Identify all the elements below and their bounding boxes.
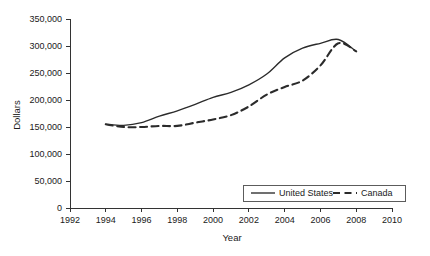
legend-label-canada: Canada: [361, 188, 393, 198]
chart-container: 050,000100,000150,000200,000250,000300,0…: [0, 0, 430, 256]
x-tick-label: 2008: [346, 215, 366, 225]
data-series-group: [106, 39, 356, 127]
line-chart: 050,000100,000150,000200,000250,000300,0…: [0, 0, 430, 256]
x-tick-label: 2010: [382, 215, 402, 225]
x-axis-title: Year: [222, 232, 241, 243]
x-tick-label: 1994: [96, 215, 116, 225]
x-tick-label: 1996: [132, 215, 152, 225]
y-tick-label: 50,000: [34, 176, 62, 186]
series-line-united-states: [106, 39, 356, 125]
legend-label-united-states: United States: [279, 188, 334, 198]
y-tick-label: 300,000: [29, 41, 62, 51]
x-tick-label: 1998: [167, 215, 187, 225]
x-tick-label: 2000: [203, 215, 223, 225]
x-axis-ticks: 1992199419961998200020022004200620082010: [60, 208, 402, 225]
y-tick-label: 200,000: [29, 95, 62, 105]
x-tick-label: 2002: [239, 215, 259, 225]
y-axis-ticks: 050,000100,000150,000200,000250,000300,0…: [29, 14, 70, 213]
y-tick-label: 150,000: [29, 122, 62, 132]
y-tick-label: 350,000: [29, 14, 62, 24]
x-tick-label: 2006: [310, 215, 330, 225]
series-line-canada: [106, 43, 356, 127]
y-tick-label: 250,000: [29, 68, 62, 78]
y-tick-label: 100,000: [29, 149, 62, 159]
y-axis-title: Dollars: [11, 100, 22, 130]
chart-legend: United StatesCanada: [243, 185, 405, 201]
y-tick-label: 0: [57, 203, 62, 213]
x-tick-label: 2004: [275, 215, 295, 225]
x-tick-label: 1992: [60, 215, 80, 225]
